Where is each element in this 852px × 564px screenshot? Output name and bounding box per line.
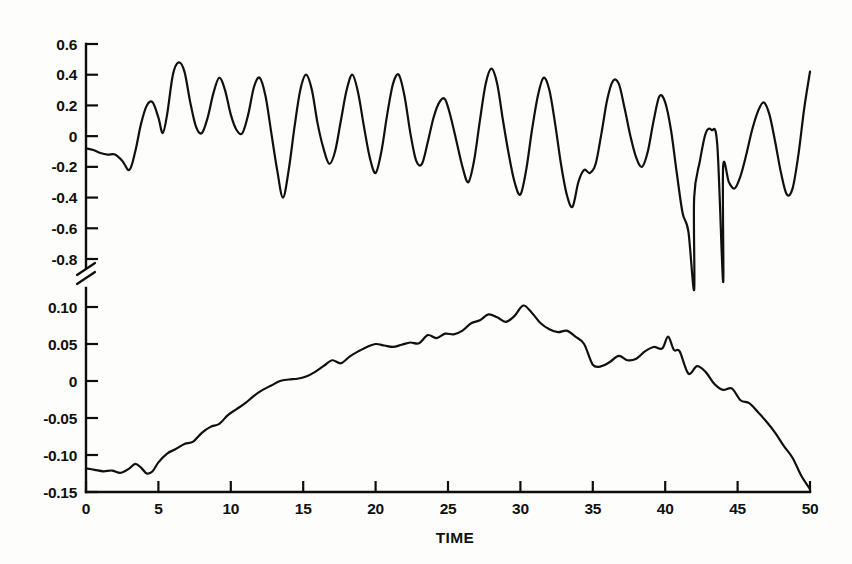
y-tick-label: 0 — [69, 128, 77, 145]
y-tick-label: 0.2 — [56, 97, 77, 114]
x-tick-label: 35 — [584, 500, 601, 517]
x-tick-label: 40 — [657, 500, 674, 517]
y-tick-label: 0.4 — [56, 66, 77, 83]
chart-plot: 0.60.40.20-0.2-0.4-0.6-0.8 0.100.050-0.0… — [0, 0, 852, 564]
x-tick-label: 10 — [222, 500, 239, 517]
x-tick-label: 25 — [440, 500, 457, 517]
y-tick-label: -0.10 — [43, 447, 77, 464]
upper-panel-y-tick-labels: 0.60.40.20-0.2-0.4-0.6-0.8 — [51, 36, 77, 268]
y-tick-label: -0.2 — [51, 158, 77, 175]
x-tick-label: 45 — [729, 500, 746, 517]
y-tick-label: -0.15 — [43, 484, 78, 501]
y-tick-label: -0.6 — [51, 220, 77, 237]
y-tick-label: -0.8 — [51, 251, 77, 268]
upper-panel-series-line — [86, 62, 810, 290]
y-tick-label: 0.6 — [56, 36, 77, 53]
x-axis-title: TIME — [436, 529, 475, 546]
figure-container: 0.60.40.20-0.2-0.4-0.6-0.8 0.100.050-0.0… — [0, 0, 852, 564]
x-tick-label: 50 — [802, 500, 819, 517]
lower-panel-y-tick-labels: 0.100.050-0.05-0.10-0.15 — [43, 299, 78, 501]
x-tick-label: 30 — [512, 500, 529, 517]
x-axis-ticks — [86, 481, 810, 492]
lower-panel-series-line — [86, 305, 810, 489]
y-tick-label: 0.05 — [48, 336, 78, 353]
y-tick-label: -0.05 — [43, 410, 78, 427]
y-tick-label: 0.10 — [48, 299, 77, 316]
x-tick-label: 20 — [367, 500, 384, 517]
x-tick-label: 0 — [82, 500, 90, 517]
y-tick-label: -0.4 — [51, 189, 77, 206]
x-axis-tick-labels: 05101520253035404550 — [82, 500, 818, 517]
y-tick-label: 0 — [69, 373, 77, 390]
x-tick-label: 15 — [295, 500, 312, 517]
lower-panel-y-ticks — [86, 307, 98, 492]
x-tick-label: 5 — [154, 500, 163, 517]
